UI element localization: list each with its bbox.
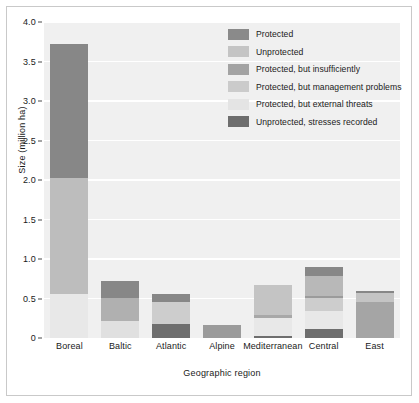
y-axis-tick-mark [38,61,42,62]
bar-segment[interactable] [101,281,139,298]
bar-segment[interactable] [254,336,292,338]
bar-segment[interactable] [152,294,190,303]
bar-segment[interactable] [152,302,190,323]
legend-item[interactable]: Unprotected, stresses recorded [228,114,408,130]
y-axis-tick-label: 1.5 [23,215,36,225]
bar-segment[interactable] [305,276,343,296]
bar-segment[interactable] [356,293,394,302]
y-axis-tick-mark [38,101,42,102]
x-axis-tick-label: Central [309,341,339,351]
bar-atlantic[interactable] [152,22,190,338]
bar-segment[interactable] [305,296,343,298]
x-axis-tick-label: Boreal [56,341,83,351]
legend-item[interactable]: Protected, but management problems [228,79,408,95]
legend-item[interactable]: Unprotected [228,44,408,60]
y-axis-tick-label: 0.5 [23,294,36,304]
bar-baltic[interactable] [101,22,139,338]
legend-item[interactable]: Protected [228,26,408,42]
legend-item-label: Unprotected [256,47,303,57]
legend-item-label: Protected, but management problems [256,82,402,92]
legend-swatch-icon [228,81,249,92]
x-axis-tick-label: Mediterranean [243,341,302,351]
y-axis-tick-label: 1.0 [23,254,36,264]
chart-figure: 00.51.01.52.02.53.03.54.0 Size (million … [0,0,419,403]
x-axis-tick-label: Alpine [209,341,235,351]
y-axis-tick-mark [38,298,42,299]
bar-segment[interactable] [254,285,292,315]
x-axis-title: Geographic region [44,368,400,378]
bar-segment[interactable] [50,44,88,178]
legend-swatch-icon [228,46,249,57]
legend-swatch-icon [228,64,249,75]
bar-segment[interactable] [254,315,292,318]
legend-swatch-icon [228,99,249,110]
y-axis-tick-mark [38,219,42,220]
y-axis-tick-mark [38,22,42,23]
legend-item-label: Unprotected, stresses recorded [256,117,377,127]
y-axis-title: Size (million ha) [17,70,27,210]
chart-legend: ProtectedUnprotectedProtected, but insuf… [228,26,408,131]
x-axis-tick-label: East [365,341,383,351]
y-axis-tick-mark [38,180,42,181]
bar-segment[interactable] [305,267,343,276]
x-axis-tick-label: Atlantic [156,341,186,351]
y-axis-tick-label: 3.5 [23,57,36,67]
bar-segment[interactable] [356,302,394,338]
bar-segment[interactable] [50,294,88,338]
bar-segment[interactable] [254,318,292,336]
bar-segment[interactable] [152,324,190,338]
y-axis-tick-label: 0 [31,333,36,343]
legend-item[interactable]: Protected, but external threats [228,96,408,112]
y-axis-tick-mark [38,259,42,260]
x-axis-tick-label: Baltic [109,341,132,351]
y-axis-tick-mark [38,338,42,339]
y-axis-tick-mark [38,140,42,141]
bar-segment[interactable] [203,325,241,338]
bar-segment[interactable] [305,298,343,311]
legend-item[interactable]: Protected, but insufficiently [228,61,408,77]
bar-segment[interactable] [305,311,343,329]
bar-segment[interactable] [50,178,88,293]
bar-segment[interactable] [101,298,139,321]
legend-swatch-icon [228,29,249,40]
bar-segment[interactable] [305,329,343,338]
bar-boreal[interactable] [50,22,88,338]
bar-segment[interactable] [356,291,394,293]
y-axis-tick-label: 4.0 [23,17,36,27]
legend-item-label: Protected, but insufficiently [256,64,360,74]
legend-item-label: Protected, but external threats [256,99,373,109]
bar-segment[interactable] [101,321,139,338]
legend-swatch-icon [228,116,249,127]
x-axis: BorealBalticAtlanticAlpineMediterraneanC… [44,341,400,357]
legend-item-label: Protected [256,29,293,39]
